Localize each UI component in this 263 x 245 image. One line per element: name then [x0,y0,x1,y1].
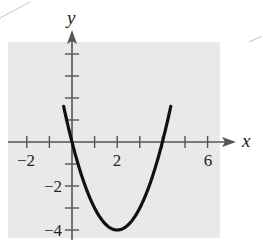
decorative-stroke-right [249,36,262,42]
x-tick-label-minus2: −2 [17,151,35,170]
x-tick-label-2: 2 [113,151,122,170]
plot-background [8,42,220,238]
parabola-chart: −2 2 6 −2 −4 x y [0,0,263,245]
y-tick-label-minus2: −2 [44,177,62,196]
y-tick-label-minus4: −4 [44,221,63,240]
y-axis-label: y [65,7,76,28]
x-tick-label-6: 6 [204,151,213,170]
decorative-stroke-left [0,2,30,18]
x-axis-label: x [241,130,251,151]
